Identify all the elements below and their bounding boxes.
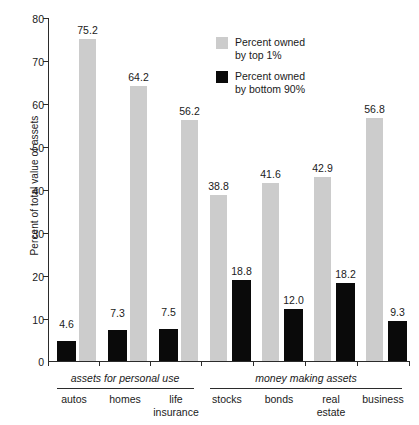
bar-bonds-top1 [262,183,279,361]
legend-swatch-top1-icon [216,37,228,49]
category-label-homes: homes [99,393,151,406]
y-tick-mark-20 [43,276,48,277]
bar-life-insurance-top1 [181,120,198,361]
legend-swatch-bottom90-icon [216,71,228,83]
y-tick-label-20: 20 [20,272,44,282]
bar-value-business-top1: 56.8 [356,103,393,115]
y-tick-label-0: 0 [20,357,44,367]
group-rule-money-making [210,388,402,389]
bar-homes-top1 [130,86,147,361]
y-tick-label-50: 50 [20,143,44,153]
y-tick-mark-60 [43,104,48,105]
y-tick-mark-70 [43,61,48,62]
bar-value-business-bottom90: 9.3 [379,306,416,318]
category-label-bonds: bonds [253,393,305,406]
y-tick-label-70: 70 [20,57,44,67]
x-tick-mark-5 [305,361,306,366]
bar-business-top1 [366,118,383,361]
x-tick-mark-1 [99,361,100,366]
bar-autos-bottom90 [57,341,76,361]
bar-value-real-estate-top1: 42.9 [304,162,341,174]
category-label-autos: autos [48,393,100,406]
group-rule-personal-use [57,388,194,389]
y-tick-label-60: 60 [20,100,44,110]
x-tick-mark-6 [357,361,358,366]
y-tick-label-30: 30 [20,229,44,239]
bar-value-bonds-bottom90: 12.0 [275,294,312,306]
bar-chart: Percent of total value of assets 80 70 6… [0,0,419,425]
bar-value-stocks-top1: 38.8 [200,180,237,192]
y-tick-label-10: 10 [20,315,44,325]
y-tick-mark-30 [43,233,48,234]
bar-value-autos-top1: 75.2 [69,24,106,36]
y-tick-mark-50 [43,147,48,148]
bar-value-homes-top1: 64.2 [120,71,157,83]
legend-item-top1: Percent owned by top 1% [216,36,305,61]
legend: Percent owned by top 1% Percent owned by… [216,36,305,104]
x-axis-line [48,361,410,362]
bar-stocks-bottom90 [232,280,251,361]
category-label-stocks: stocks [201,393,253,406]
legend-label-top1: Percent owned by top 1% [235,36,305,61]
x-tick-mark-2 [150,361,151,366]
category-label-life-insurance: life insurance [150,393,202,418]
legend-label-bottom90: Percent owned by bottom 90% [235,70,305,95]
bar-real-estate-bottom90 [336,283,355,361]
bar-value-bonds-top1: 41.6 [252,168,289,180]
x-tick-mark-3 [201,361,202,366]
y-tick-mark-40 [43,190,48,191]
bar-autos-top1 [79,39,96,361]
x-tick-mark-4 [253,361,254,366]
x-tick-mark-0 [48,361,49,366]
bar-value-stocks-bottom90: 18.8 [223,265,260,277]
bar-bonds-bottom90 [284,309,303,361]
legend-item-bottom90: Percent owned by bottom 90% [216,70,305,95]
y-tick-mark-80 [43,18,48,19]
bar-life-insurance-bottom90 [159,329,178,361]
bar-business-bottom90 [388,321,407,361]
bar-stocks-top1 [210,195,227,361]
x-tick-mark-7 [409,361,410,366]
group-title-personal-use: assets for personal use [51,372,199,384]
bar-value-real-estate-bottom90: 18.2 [327,268,364,280]
bar-value-life-insurance-top1: 56.2 [171,105,208,117]
category-label-real-estate: real estate [305,393,357,418]
bar-homes-bottom90 [108,330,127,361]
y-tick-label-80: 80 [20,14,44,24]
category-label-business: business [357,393,409,406]
y-tick-label-40: 40 [20,186,44,196]
y-axis-line [48,18,49,361]
group-title-money-making: money making assets [204,372,408,384]
